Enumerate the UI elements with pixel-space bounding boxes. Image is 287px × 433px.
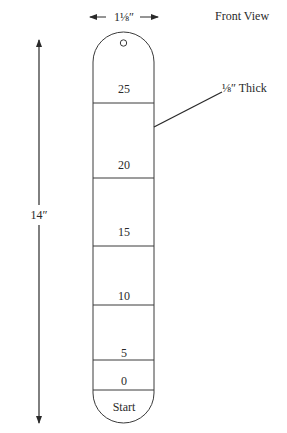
segment-label-10: 10: [118, 290, 130, 302]
segment-label-start: Start: [113, 401, 136, 413]
segment-label-15: 15: [118, 226, 130, 238]
view-title: Front View: [215, 10, 269, 22]
segment-label-20: 20: [118, 159, 130, 171]
hanging-hole-icon: [120, 40, 126, 46]
segment-label-0: 0: [121, 375, 127, 387]
thickness-leader-line: [154, 92, 222, 127]
width-dimension-label: 1⅛″: [114, 11, 134, 23]
segment-label-25: 25: [118, 83, 130, 95]
height-dimension-label: 14″: [31, 207, 48, 223]
segment-label-5: 5: [121, 347, 127, 359]
measuring-strip-diagram: 1⅛″ Front View ⅛″ Thick 14″ 25 20 15 10 …: [0, 0, 287, 433]
thickness-callout-label: ⅛″ Thick: [222, 82, 267, 94]
